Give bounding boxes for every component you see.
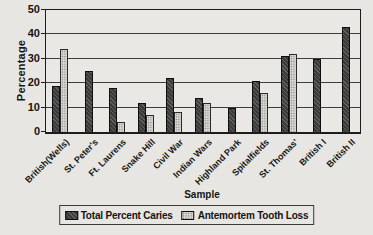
bar xyxy=(313,59,321,132)
bar xyxy=(203,103,211,132)
y-axis-tickmark xyxy=(41,107,45,108)
bar xyxy=(195,98,203,132)
y-axis-tickmark xyxy=(41,131,45,132)
bar xyxy=(260,93,268,132)
y-tick-label: 30 xyxy=(14,52,40,64)
bar-group xyxy=(303,10,332,132)
y-tick-label: 40 xyxy=(14,27,40,39)
bar-group xyxy=(246,10,275,132)
legend-swatch-icon xyxy=(65,211,78,220)
bar xyxy=(60,49,68,132)
bar-group xyxy=(217,10,246,132)
bar-group xyxy=(331,10,360,132)
y-axis-tickmark xyxy=(41,58,45,59)
bar xyxy=(138,103,146,132)
bar-group xyxy=(75,10,104,132)
bar xyxy=(85,71,93,132)
bar-group xyxy=(160,10,189,132)
bar-group xyxy=(132,10,161,132)
bar-group xyxy=(274,10,303,132)
bar xyxy=(289,54,297,132)
bar xyxy=(109,88,117,132)
y-tick-label: 50 xyxy=(14,3,40,15)
bar xyxy=(166,78,174,132)
bar xyxy=(228,108,236,132)
bar-group xyxy=(103,10,132,132)
legend-item: Antemortem Tooth Loss xyxy=(182,210,309,221)
bar xyxy=(52,86,60,132)
bar xyxy=(281,56,289,132)
y-axis-tickmark xyxy=(41,82,45,83)
legend-item: Total Percent Caries xyxy=(65,210,173,221)
y-tick-label: 0 xyxy=(14,125,40,137)
legend-label: Antemortem Tooth Loss xyxy=(198,210,309,221)
bar xyxy=(174,112,182,132)
bar xyxy=(117,122,125,132)
y-tick-label: 10 xyxy=(14,101,40,113)
bar-group xyxy=(189,10,218,132)
y-axis-tickmark xyxy=(41,9,45,10)
bar xyxy=(252,81,260,132)
bar xyxy=(342,27,350,132)
legend-swatch-icon xyxy=(182,211,195,220)
legend: Total Percent CariesAntemortem Tooth Los… xyxy=(59,205,315,225)
bar-groups xyxy=(46,10,360,132)
bar xyxy=(146,115,154,132)
legend-label: Total Percent Caries xyxy=(81,210,173,221)
plot-area xyxy=(45,9,361,134)
y-tick-label: 20 xyxy=(14,76,40,88)
chart: Percentage Sample Total Percent CariesAn… xyxy=(0,0,373,235)
bar-group xyxy=(46,10,75,132)
y-axis-tickmark xyxy=(41,33,45,34)
